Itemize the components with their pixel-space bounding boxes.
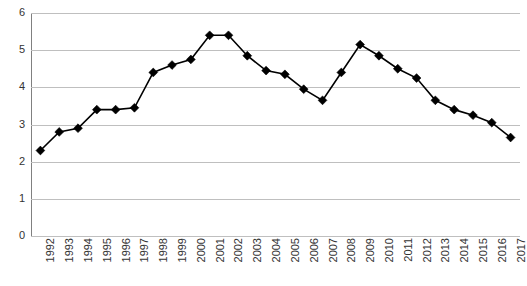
series-markers	[36, 31, 515, 155]
data-point-marker	[318, 96, 327, 105]
x-tick-label: 1999	[177, 238, 188, 262]
x-tick-label: 2015	[478, 238, 489, 262]
gridline-0	[31, 236, 520, 237]
data-point-marker	[130, 103, 139, 112]
x-tick-label: 2012	[422, 238, 433, 262]
x-tick-label: 2005	[290, 238, 301, 262]
x-tick-label: 1996	[121, 238, 132, 262]
y-tick-label: 6	[0, 7, 25, 18]
x-tick-label: 1995	[102, 238, 113, 262]
plot-area	[31, 13, 520, 236]
x-tick-label: 2000	[196, 238, 207, 262]
x-axis-labels: 1992199319941995199619971998199920002001…	[31, 238, 520, 286]
y-tick-label: 2	[0, 156, 25, 167]
data-series	[31, 13, 520, 236]
x-tick-label: 1993	[64, 238, 75, 262]
data-point-marker	[469, 111, 478, 120]
x-tick-label: 2007	[328, 238, 339, 262]
x-tick-label: 2016	[497, 238, 508, 262]
x-tick-label: 1994	[83, 238, 94, 262]
data-point-marker	[149, 68, 158, 77]
x-tick-label: 2014	[459, 238, 470, 262]
data-point-marker	[356, 40, 365, 49]
data-point-marker	[450, 105, 459, 114]
x-tick-label: 2010	[384, 238, 395, 262]
data-point-marker	[111, 105, 120, 114]
x-tick-label: 2013	[440, 238, 451, 262]
x-tick-label: 2009	[365, 238, 376, 262]
y-tick-label: 4	[0, 81, 25, 92]
x-tick-label: 2002	[233, 238, 244, 262]
series-line	[40, 35, 510, 150]
x-tick-label: 2011	[403, 238, 414, 262]
x-tick-label: 2008	[346, 238, 357, 262]
y-tick-label: 1	[0, 193, 25, 204]
x-tick-label: 2006	[309, 238, 320, 262]
y-tick-label: 3	[0, 119, 25, 130]
x-tick-label: 2017	[516, 238, 527, 262]
y-tick-label: 5	[0, 44, 25, 55]
data-point-marker	[337, 68, 346, 77]
data-point-marker	[168, 61, 177, 70]
x-tick-label: 2003	[252, 238, 263, 262]
x-tick-label: 2004	[271, 238, 282, 262]
x-tick-label: 1997	[139, 238, 150, 262]
x-tick-label: 1998	[158, 238, 169, 262]
x-tick-label: 1992	[45, 238, 56, 262]
y-axis-labels: 6543210	[0, 13, 27, 236]
y-tick-label: 0	[0, 230, 25, 241]
x-tick-label: 2001	[215, 238, 226, 262]
